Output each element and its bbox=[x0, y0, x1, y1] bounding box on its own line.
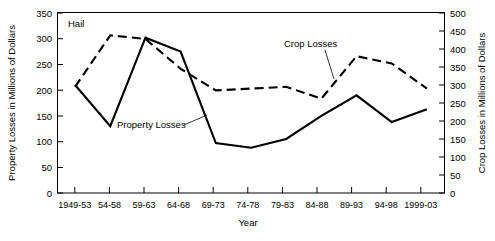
right-tick-500: 500 bbox=[450, 8, 466, 19]
right-axis-title: Crop Losses in Millions of Dollars bbox=[476, 33, 487, 174]
chart-title-inset: Hail bbox=[68, 18, 84, 29]
right-tick-50: 50 bbox=[450, 170, 461, 181]
annotation-crop-losses: Crop Losses bbox=[284, 38, 338, 79]
series-line-property-losses bbox=[75, 38, 427, 148]
left-tick-300: 300 bbox=[36, 33, 52, 44]
annotation-label-property-losses: Property Losses bbox=[117, 119, 186, 130]
left-tick-200: 200 bbox=[36, 85, 52, 96]
left-tick-100: 100 bbox=[36, 136, 52, 147]
right-tick-300: 300 bbox=[450, 80, 466, 91]
x-label-7: 84-88 bbox=[305, 200, 328, 210]
right-tick-0: 0 bbox=[450, 188, 455, 199]
right-tick-100: 100 bbox=[450, 152, 466, 163]
x-axis-ticks bbox=[75, 187, 421, 193]
left-tick-0: 0 bbox=[47, 188, 52, 199]
left-tick-150: 150 bbox=[36, 111, 52, 122]
x-label-0: 1949-53 bbox=[58, 200, 91, 210]
x-label-9: 94-98 bbox=[375, 200, 398, 210]
left-axis-title: Property Losses in Millions of Dollars bbox=[6, 25, 17, 181]
annotation-label-crop-losses: Crop Losses bbox=[284, 38, 338, 49]
series-layer bbox=[75, 35, 427, 147]
x-label-4: 69-73 bbox=[202, 200, 225, 210]
right-tick-350: 350 bbox=[450, 62, 466, 73]
x-label-10: 1999-03 bbox=[404, 200, 437, 210]
right-axis-ticks bbox=[439, 13, 445, 193]
left-tick-250: 250 bbox=[36, 59, 52, 70]
x-label-6: 79-83 bbox=[271, 200, 294, 210]
x-label-3: 64-68 bbox=[167, 200, 190, 210]
right-tick-450: 450 bbox=[450, 26, 466, 37]
x-axis-tick-labels: 1949-53 54-58 59-63 64-68 69-73 74-78 79… bbox=[58, 200, 437, 210]
x-label-5: 74-78 bbox=[236, 200, 259, 210]
left-tick-50: 50 bbox=[41, 162, 52, 173]
left-axis-ticks bbox=[58, 13, 64, 193]
x-label-8: 89-93 bbox=[340, 200, 363, 210]
right-tick-200: 200 bbox=[450, 116, 466, 127]
x-axis-title: Year bbox=[238, 217, 257, 228]
right-tick-250: 250 bbox=[450, 98, 466, 109]
series-line-crop-losses bbox=[75, 35, 427, 98]
right-axis-tick-labels: 500 450 400 350 300 250 200 150 100 50 0 bbox=[450, 8, 466, 199]
plot-area-frame bbox=[58, 13, 445, 194]
chart-canvas: 350 300 250 200 150 100 50 0 Property Lo… bbox=[0, 0, 495, 241]
left-tick-350: 350 bbox=[36, 8, 52, 19]
x-label-1: 54-58 bbox=[98, 200, 121, 210]
x-label-2: 59-63 bbox=[132, 200, 155, 210]
right-tick-150: 150 bbox=[450, 134, 466, 145]
hail-losses-chart-figure: 350 300 250 200 150 100 50 0 Property Lo… bbox=[0, 0, 495, 241]
annotation-property-losses: Property Losses bbox=[117, 115, 207, 130]
right-tick-400: 400 bbox=[450, 44, 466, 55]
left-axis-tick-labels: 350 300 250 200 150 100 50 0 bbox=[36, 8, 52, 199]
